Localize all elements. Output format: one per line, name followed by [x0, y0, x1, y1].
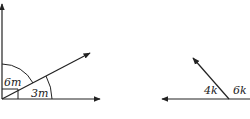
diagram-canvas: 6m 3m 4k 6k: [0, 0, 250, 119]
angle-label-4k: 4k: [203, 84, 218, 97]
angle-label-3m: 3m: [31, 87, 48, 100]
angle-label-6m: 6m: [4, 76, 21, 89]
left-figure: 6m 3m: [2, 4, 100, 100]
angle-label-6k: 6k: [233, 84, 247, 97]
right-figure: 4k 6k: [162, 58, 250, 99]
